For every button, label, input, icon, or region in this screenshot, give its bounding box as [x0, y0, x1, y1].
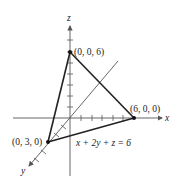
y-axis — [29, 61, 118, 166]
point-x-intercept — [132, 116, 136, 120]
point-y-intercept — [46, 140, 50, 144]
plane-equation: x + 2y + z = 6 — [75, 138, 131, 148]
x-axis-label: x — [164, 113, 170, 123]
label-z-intercept: (0, 0, 6) — [74, 47, 104, 58]
y-axis-label: y — [20, 166, 26, 176]
label-y-intercept: (0, 3, 0) — [12, 137, 42, 148]
edge-z-y — [48, 52, 70, 142]
label-x-intercept: (6, 0, 0) — [130, 104, 160, 115]
point-z-intercept — [68, 50, 72, 54]
z-axis-label: z — [66, 13, 71, 23]
edge-z-x — [70, 52, 134, 118]
plane-diagram: z x y (0, 0, 6) (6, 0, 0) (0, 3, 0) x + … — [0, 0, 179, 186]
